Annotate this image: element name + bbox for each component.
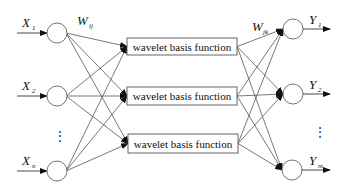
input-node-2: X2: [17, 78, 67, 106]
output-ellipsis: ⋮: [314, 125, 326, 139]
output-label: Y: [309, 153, 318, 168]
output-label-sub: 2: [318, 86, 322, 94]
output-neuron-circle: [283, 84, 303, 104]
weight-label-jk: W jk: [252, 19, 269, 36]
wavelet-neural-network-diagram: X1X2Xn wavelet basis functionwavelet bas…: [0, 0, 348, 188]
edge-input-3-hidden-1: [66, 47, 127, 172]
edge-input-3-hidden-2: [66, 96, 127, 171]
input-hidden-connections: [66, 33, 128, 171]
output-label-sub: 1: [318, 21, 322, 29]
hidden-layer: wavelet basis functionwavelet basis func…: [127, 38, 238, 153]
weight-label-ij: W ij: [77, 13, 93, 30]
wavelet-box-label: wavelet basis function: [133, 41, 232, 53]
input-ellipsis: ⋮: [54, 129, 66, 143]
output-layer: Y1Y2Ym: [282, 12, 330, 180]
input-label-sub: 1: [32, 24, 36, 32]
wavelet-box-label: wavelet basis function: [134, 138, 233, 150]
input-label: X: [21, 153, 31, 168]
output-node-3: Ym: [282, 153, 330, 180]
input-label-sub: 2: [32, 87, 36, 95]
edge-hidden-2-output-2: [237, 94, 283, 96]
edge-hidden-3-output-3: [238, 144, 282, 171]
hidden-node-1: wavelet basis function: [127, 38, 237, 55]
output-label: Y: [309, 77, 318, 92]
input-label: X: [21, 78, 31, 93]
edge-hidden-1-output-3: [237, 47, 282, 171]
output-neuron-circle: [282, 160, 302, 180]
edge-hidden-2-output-1: [237, 29, 283, 96]
input-label-sub: n: [32, 162, 36, 170]
output-neuron-circle: [283, 19, 303, 39]
edge-input-2-hidden-1: [66, 47, 127, 97]
input-node-1: X1: [17, 15, 67, 43]
edge-input-2-hidden-3: [66, 96, 128, 144]
input-layer: X1X2Xn: [17, 15, 67, 181]
input-label: X: [21, 15, 31, 30]
edge-input-1-hidden-1: [66, 33, 127, 47]
edge-hidden-3-output-1: [238, 29, 283, 144]
edge-hidden-3-output-2: [238, 94, 283, 144]
wavelet-box-label: wavelet basis function: [133, 90, 232, 102]
output-node-1: Y1: [283, 12, 330, 39]
weight-ij-main: W: [77, 13, 89, 28]
weight-ij-sub: ij: [89, 22, 93, 30]
input-neuron-circle: [47, 161, 67, 181]
input-neuron-circle: [47, 23, 67, 43]
weight-jk-sub: jk: [262, 28, 269, 36]
input-neuron-circle: [47, 86, 67, 106]
edge-input-3-hidden-3: [66, 144, 128, 172]
output-label: Y: [309, 12, 318, 27]
hidden-node-2: wavelet basis function: [127, 87, 237, 105]
hidden-output-connections: [237, 29, 283, 170]
output-label-sub: m: [318, 162, 323, 170]
input-node-3: Xn: [17, 153, 67, 181]
output-node-2: Y2: [283, 77, 330, 104]
hidden-node-3: wavelet basis function: [128, 134, 238, 153]
